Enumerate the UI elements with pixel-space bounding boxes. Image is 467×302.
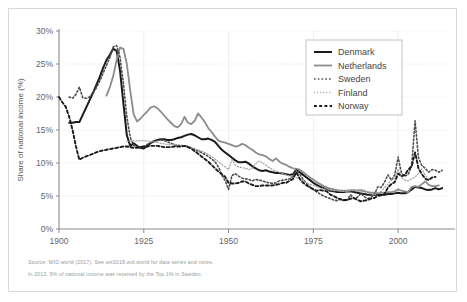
legend-label-denmark: Denmark: [338, 47, 375, 57]
legend-label-norway: Norway: [338, 101, 369, 111]
y-tick-label: 0%: [41, 224, 54, 234]
x-tick-label: 1975: [304, 236, 323, 246]
legend-label-sweden: Sweden: [338, 74, 371, 84]
chart-plot-area: 0%5%10%15%20%25%30%19001925195019752000S…: [9, 9, 458, 293]
x-tick-label: 1900: [50, 236, 69, 246]
y-axis-title: Share of national income (%): [16, 78, 25, 182]
legend-label-finland: Finland: [338, 88, 368, 98]
top-income-share-line-chart: 0%5%10%15%20%25%30%19001925195019752000S…: [9, 9, 458, 293]
y-tick-label: 15%: [36, 125, 53, 135]
y-tick-label: 20%: [36, 92, 53, 102]
interpretation-note: In 2013, 9% of national income was recei…: [28, 271, 202, 277]
source-note: Source: WID.world (2017). See wir2018.wi…: [28, 259, 214, 265]
y-tick-label: 25%: [36, 59, 53, 69]
legend-label-netherlands: Netherlands: [338, 61, 387, 71]
y-tick-label: 10%: [36, 158, 53, 168]
series-line-finland: [127, 141, 429, 195]
chart-figure: 0%5%10%15%20%25%30%19001925195019752000S…: [8, 8, 457, 292]
x-tick-label: 1925: [134, 236, 153, 246]
y-tick-label: 5%: [41, 191, 54, 201]
y-tick-label: 30%: [36, 26, 53, 36]
x-tick-label: 1950: [219, 236, 238, 246]
x-tick-label: 2000: [389, 236, 408, 246]
